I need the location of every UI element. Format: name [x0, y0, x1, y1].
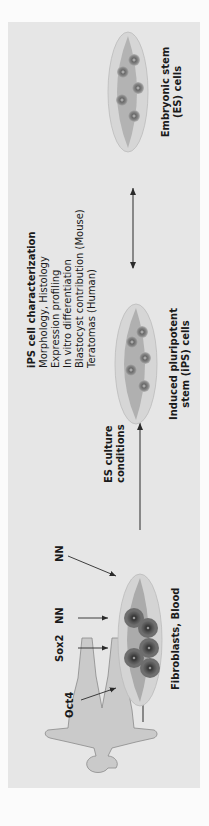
step-label-line2: conditions [115, 424, 127, 483]
es-dish-icon [108, 32, 148, 152]
characterization-item: Teratomas (Human) [86, 209, 98, 368]
characterization-item: Morphology, Histology [38, 209, 50, 368]
ips-label-line1: Induced pluripotent [168, 304, 180, 424]
ips-dish-icon [115, 304, 157, 424]
step-label-line1: ES culture [103, 425, 115, 483]
factor-label-oct4: Oct4 [64, 692, 76, 718]
fibroblast-dish-icon [118, 574, 162, 706]
characterization-item: In vitro differentiation [62, 209, 74, 368]
characterization-item: Blastocyst contribution (Mouse) [74, 209, 86, 368]
diagram-panel: Oct4 Sox2 NN NN Fibroblasts, Blood ES cu… [8, 22, 200, 788]
factor-label-nn-2: NN [54, 545, 66, 562]
es-label-line2: (ES) cells [172, 36, 184, 148]
factor-label-nn-1: NN [54, 607, 66, 624]
source-label: Fibroblasts, Blood [170, 588, 182, 690]
es-label-line1: Embryonic stem [160, 36, 172, 148]
factor-label-sox2: Sox2 [54, 635, 66, 662]
ips-label-line2: stem (iPS) cells [180, 304, 192, 424]
characterization-item: Expression profiling [50, 209, 62, 368]
characterization-list: iPS cell characterization Morphology, Hi… [26, 209, 98, 368]
characterization-title: iPS cell characterization [26, 209, 38, 368]
